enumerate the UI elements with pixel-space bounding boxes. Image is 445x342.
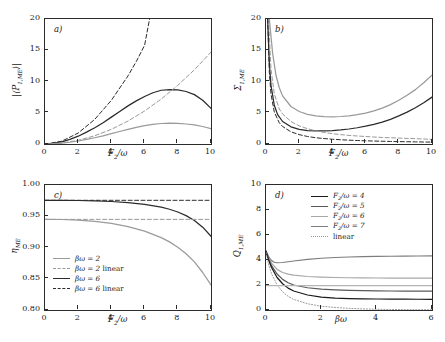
ytick-4: 4 bbox=[223, 254, 261, 263]
ytick-15: 15 bbox=[223, 44, 261, 53]
legend-label: βω = 6 bbox=[75, 274, 100, 283]
panel-b: b) Σ1,ME F2/ω 05101520 0246810 bbox=[223, 0, 445, 172]
ytick-0.90: 0.90 bbox=[0, 242, 40, 251]
ytick-mark bbox=[265, 259, 269, 260]
legend-item: βω = 6 bbox=[53, 273, 124, 283]
legend-item: F2/ω = 4 bbox=[311, 191, 365, 201]
legend-label: βω = 2 bbox=[75, 254, 100, 263]
xtick-mark bbox=[364, 139, 365, 143]
curve-beta-omega-6 bbox=[45, 90, 211, 144]
ytick-5: 5 bbox=[223, 107, 261, 116]
curve-beta-omega-6-linear bbox=[45, 19, 150, 144]
ytick-mark bbox=[44, 111, 48, 112]
ytick-0.85: 0.85 bbox=[0, 273, 40, 282]
curve-curve-2-solid bbox=[268, 19, 432, 131]
ytick-mark bbox=[44, 309, 48, 310]
xtick-mark bbox=[397, 139, 398, 143]
ytick-mark bbox=[265, 209, 269, 210]
xtick-mark bbox=[110, 305, 111, 309]
xtick-mark bbox=[210, 305, 211, 309]
panel-a-plot-area bbox=[44, 18, 212, 145]
xtick-10: 10 bbox=[419, 147, 443, 156]
xtick-4: 4 bbox=[319, 147, 343, 156]
ytick-5: 5 bbox=[0, 107, 40, 116]
ytick-15: 15 bbox=[0, 44, 40, 53]
legend-label: linear bbox=[333, 232, 354, 241]
panel-d-legend: F2/ω = 4F2/ω = 5F2/ω = 6F2/ω = 7linear bbox=[311, 191, 365, 241]
xtick-6: 6 bbox=[132, 147, 156, 156]
xtick-8: 8 bbox=[165, 313, 189, 322]
ytick-mark bbox=[265, 49, 269, 50]
curve-beta-omega-2-linear bbox=[45, 52, 211, 144]
xtick-6: 6 bbox=[419, 313, 443, 322]
legend-swatch bbox=[311, 236, 328, 237]
xtick-mark bbox=[331, 139, 332, 143]
xtick-mark bbox=[265, 139, 266, 143]
ytick-mark bbox=[265, 284, 269, 285]
panel-a: a) |⟨P1,ME⟩| F2/ω 05101520 0246810 bbox=[0, 0, 222, 172]
xtick-6: 6 bbox=[132, 313, 156, 322]
ytick-0.80: 0.80 bbox=[0, 304, 40, 313]
ytick-mark bbox=[44, 143, 48, 144]
xtick-4: 4 bbox=[98, 313, 122, 322]
panel-a-label: a) bbox=[54, 24, 62, 34]
legend-swatch bbox=[53, 288, 70, 289]
xtick-2: 2 bbox=[286, 147, 310, 156]
legend-label: F2/ω = 4 bbox=[333, 191, 365, 201]
ytick-0: 0 bbox=[0, 138, 40, 147]
panel-b-label: b) bbox=[275, 24, 284, 34]
panel-a-curves bbox=[45, 19, 211, 144]
legend-swatch bbox=[53, 278, 70, 279]
legend-item: F2/ω = 5 bbox=[311, 201, 365, 211]
ytick-mark bbox=[44, 18, 48, 19]
legend-label: βω = 2 linear bbox=[75, 264, 124, 273]
legend-swatch bbox=[53, 258, 70, 259]
xtick-mark bbox=[431, 139, 432, 143]
xtick-mark bbox=[110, 139, 111, 143]
ytick-mark bbox=[265, 111, 269, 112]
legend-label: βω = 6 linear bbox=[75, 284, 124, 293]
legend-label: F2/ω = 7 bbox=[333, 221, 365, 231]
xtick-mark bbox=[77, 139, 78, 143]
ytick-1.00: 1.00 bbox=[0, 179, 40, 188]
xtick-mark bbox=[431, 305, 432, 309]
ytick-mark bbox=[44, 277, 48, 278]
xtick-10: 10 bbox=[198, 147, 222, 156]
xtick-mark bbox=[143, 305, 144, 309]
ytick-20: 20 bbox=[0, 13, 40, 22]
ytick-mark bbox=[265, 18, 269, 19]
ytick-mark bbox=[265, 80, 269, 81]
xtick-mark bbox=[210, 139, 211, 143]
legend-item: βω = 2 bbox=[53, 253, 124, 263]
legend-swatch bbox=[311, 216, 328, 217]
curve-curve-1-upper-solid bbox=[269, 19, 432, 117]
ytick-mark bbox=[265, 143, 269, 144]
xtick-0: 0 bbox=[253, 147, 277, 156]
panel-c-legend: βω = 2βω = 2 linearβω = 6βω = 6 linear bbox=[53, 253, 124, 293]
xtick-2: 2 bbox=[308, 313, 332, 322]
ytick-mark bbox=[265, 234, 269, 235]
ytick-0: 0 bbox=[223, 304, 261, 313]
ytick-6: 6 bbox=[223, 229, 261, 238]
ytick-10: 10 bbox=[0, 76, 40, 85]
xtick-8: 8 bbox=[165, 147, 189, 156]
legend-item: linear bbox=[311, 231, 365, 241]
ytick-8: 8 bbox=[223, 204, 261, 213]
ytick-mark bbox=[44, 246, 48, 247]
legend-swatch bbox=[311, 206, 328, 207]
curve-beta-omega-6 bbox=[45, 200, 211, 236]
curve-beta-omega-2 bbox=[45, 123, 211, 144]
xtick-4: 4 bbox=[364, 313, 388, 322]
ytick-0.95: 0.95 bbox=[0, 210, 40, 219]
xtick-mark bbox=[320, 305, 321, 309]
panel-c: c) ηME F2/ω 0.800.850.900.951.00 0246810… bbox=[0, 172, 222, 342]
curve-f2-omega-7 bbox=[266, 251, 432, 263]
legend-item: F2/ω = 6 bbox=[311, 211, 365, 221]
legend-item: βω = 2 linear bbox=[53, 263, 124, 273]
xtick-mark bbox=[176, 139, 177, 143]
xtick-2: 2 bbox=[65, 147, 89, 156]
xtick-mark bbox=[375, 305, 376, 309]
legend-swatch bbox=[311, 226, 328, 227]
panel-c-label: c) bbox=[54, 190, 62, 200]
curve-curve-3-dashed bbox=[268, 19, 432, 139]
